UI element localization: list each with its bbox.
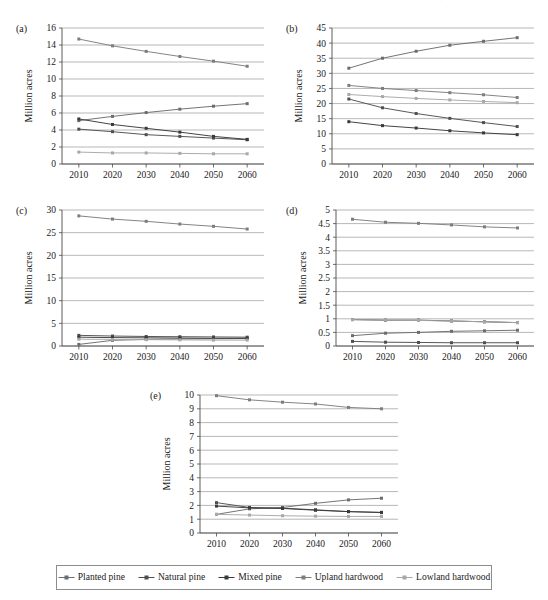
x-tick-label: 2030	[407, 170, 426, 180]
y-tick-label: 3.5	[318, 246, 330, 256]
y-tick-label: 20	[47, 251, 57, 261]
y-tick-label: 10	[47, 74, 57, 84]
panel-letter-c: (c)	[16, 205, 27, 217]
series-marker	[482, 121, 485, 124]
series-marker	[448, 98, 451, 101]
series-marker	[417, 222, 420, 225]
series-marker	[381, 124, 384, 127]
series-marker	[482, 40, 485, 43]
series-marker	[351, 340, 354, 343]
legend-square	[64, 576, 68, 580]
x-tick-label: 2060	[372, 539, 391, 549]
series-marker	[347, 98, 350, 101]
x-tick-label: 2040	[442, 352, 461, 362]
series-line	[79, 335, 247, 337]
chart-svg-e: (e)012345678910Million acres201020202030…	[148, 385, 408, 561]
chart-panel-c: (c)051015202530Million acres201020202030…	[14, 200, 270, 372]
series-marker	[380, 497, 383, 500]
y-tick-label: 20	[317, 99, 327, 109]
series-marker	[111, 151, 114, 154]
legend-item: Natural pine	[138, 573, 205, 583]
series-line	[79, 339, 247, 340]
legend-item: Upland hardwood	[295, 573, 383, 583]
legend-marker-icon	[138, 573, 155, 582]
x-tick-label: 2060	[508, 170, 527, 180]
y-tick-label: 3	[325, 260, 330, 270]
series-marker	[246, 102, 249, 105]
series-marker	[77, 214, 80, 217]
legend-item-label: Natural pine	[158, 573, 205, 583]
series-marker	[448, 44, 451, 47]
series-marker	[516, 226, 519, 229]
series-marker	[450, 330, 453, 333]
series-marker	[482, 131, 485, 134]
y-tick-label: 0	[325, 341, 330, 351]
x-tick-label: 2060	[238, 352, 257, 362]
series-marker	[178, 108, 181, 111]
legend-square	[225, 576, 229, 580]
series-marker	[77, 128, 80, 131]
x-tick-label: 2050	[204, 170, 223, 180]
legend-marker-icon	[58, 573, 75, 582]
series-line	[217, 514, 382, 516]
series-marker	[111, 130, 114, 133]
series-marker	[516, 341, 519, 344]
y-tick-label: 14	[47, 40, 57, 50]
series-line	[79, 216, 247, 229]
series-marker	[111, 123, 114, 126]
y-tick-label: 8	[189, 418, 194, 428]
legend-item-label: Mixed pine	[238, 573, 282, 583]
series-line	[79, 119, 247, 139]
chart-panel-e: (e)012345678910Million acres201020202030…	[148, 385, 408, 561]
x-tick-label: 2020	[240, 539, 259, 549]
x-tick-label: 2030	[409, 352, 428, 362]
y-tick-label: 0	[189, 528, 194, 538]
chart-svg-a: (a)0246810121416Million acres20102020203…	[14, 18, 270, 190]
series-marker	[483, 329, 486, 332]
legend-item: Mixed pine	[218, 573, 282, 583]
legend-item-label: Upland hardwood	[315, 573, 383, 583]
series-line	[353, 320, 518, 323]
series-marker	[483, 320, 486, 323]
y-tick-label: 2	[51, 142, 56, 152]
legend-square	[144, 576, 148, 580]
series-marker	[145, 338, 148, 341]
series-marker	[246, 339, 249, 342]
series-marker	[450, 319, 453, 322]
y-tick-label: 35	[317, 54, 327, 64]
y-tick-label: 2	[325, 287, 330, 297]
y-tick-label: 40	[317, 39, 327, 49]
y-tick-label: 8	[51, 91, 56, 101]
series-marker	[178, 135, 181, 138]
series-marker	[347, 67, 350, 70]
series-marker	[77, 38, 80, 41]
series-marker	[482, 100, 485, 103]
series-marker	[417, 331, 420, 334]
panel-letter-b: (b)	[286, 23, 298, 35]
series-line	[79, 129, 247, 140]
y-tick-label: 4	[325, 233, 330, 243]
legend-square	[403, 576, 407, 580]
series-marker	[77, 117, 80, 120]
y-tick-label: 10	[317, 129, 327, 139]
x-tick-label: 2060	[508, 352, 527, 362]
series-marker	[212, 152, 215, 155]
x-tick-label: 2010	[69, 170, 88, 180]
series-marker	[415, 97, 418, 100]
x-tick-label: 2020	[103, 352, 122, 362]
y-tick-label: 2.5	[318, 273, 330, 283]
y-tick-label: 15	[47, 273, 57, 283]
series-marker	[516, 101, 519, 104]
series-marker	[281, 514, 284, 517]
series-marker	[415, 112, 418, 115]
series-marker	[516, 36, 519, 39]
x-tick-label: 2010	[207, 539, 226, 549]
y-tick-label: 30	[317, 69, 327, 79]
y-tick-label: 5	[189, 459, 194, 469]
series-marker	[417, 341, 420, 344]
y-tick-label: 0	[51, 159, 56, 169]
figure-legend: Planted pineNatural pineMixed pineUpland…	[56, 565, 492, 590]
legend-marker-icon	[295, 573, 312, 582]
series-marker	[246, 65, 249, 68]
series-marker	[212, 339, 215, 342]
